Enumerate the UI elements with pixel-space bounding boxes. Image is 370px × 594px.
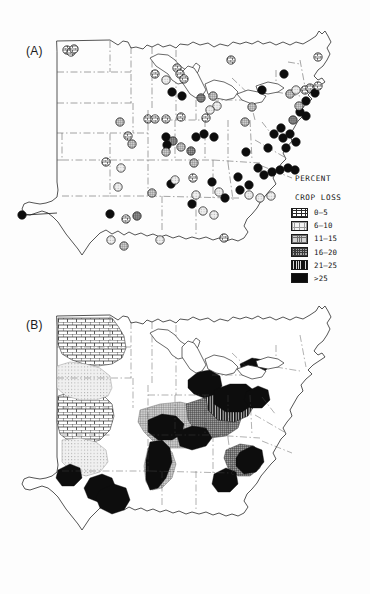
legend-row: 0–5 — [291, 207, 367, 219]
legend-swatch-over-25-icon — [291, 273, 308, 283]
data-point-marker — [133, 212, 141, 220]
data-point-marker — [189, 174, 197, 182]
data-point-marker — [256, 194, 264, 202]
data-point-marker — [117, 164, 125, 172]
data-point-marker — [102, 158, 110, 166]
data-point-marker — [241, 118, 249, 126]
data-point-marker — [220, 234, 228, 242]
data-point-marker — [197, 94, 205, 102]
data-point-marker — [282, 144, 290, 152]
data-point-marker — [227, 56, 235, 64]
data-point-marker — [221, 194, 229, 202]
legend-label-21-25: 21–25 — [314, 261, 337, 270]
data-point-marker — [177, 113, 185, 121]
data-point-marker — [151, 70, 159, 78]
data-point-marker — [270, 130, 278, 138]
panel-b-map — [0, 292, 370, 594]
legend-label-16-20: 16–20 — [314, 248, 337, 257]
legend-row: 16–20 — [291, 246, 367, 258]
legend-swatch-11-15-icon — [291, 234, 308, 244]
data-point-marker — [148, 189, 156, 197]
data-point-marker — [292, 138, 300, 146]
data-point-marker — [258, 86, 266, 94]
legend-title: PERCENT CROP LOSS — [295, 164, 367, 202]
legend-swatch-6-10-icon — [291, 221, 308, 231]
data-point-marker — [206, 106, 214, 114]
legend-row: 21–25 — [291, 259, 367, 271]
data-point-marker — [188, 200, 196, 208]
data-point-marker — [314, 82, 322, 90]
data-point-marker — [277, 124, 285, 132]
data-point-marker — [116, 118, 124, 126]
data-point-marker — [162, 115, 170, 123]
data-point-marker — [245, 191, 253, 199]
data-point-marker — [242, 148, 250, 156]
data-point-marker — [209, 92, 217, 100]
legend-swatch-0-5-icon — [291, 208, 308, 218]
legend-label-over-25: >25 — [314, 274, 328, 283]
data-point-marker — [264, 144, 272, 152]
legend-row: 6–10 — [291, 220, 367, 232]
data-point-marker — [114, 183, 122, 191]
data-point-marker — [120, 242, 128, 250]
data-point-marker — [268, 168, 276, 176]
data-point-marker — [295, 102, 303, 110]
data-point-marker — [192, 133, 200, 141]
data-point-marker — [162, 148, 170, 156]
data-point-marker — [70, 45, 78, 53]
data-point-marker — [192, 191, 200, 199]
legend-swatch-21-25-icon — [291, 260, 308, 270]
data-point-marker — [210, 133, 218, 141]
legend-title-line2: CROP LOSS — [295, 193, 342, 202]
data-point-marker — [124, 132, 132, 140]
data-point-marker — [162, 76, 170, 84]
data-point-marker — [171, 176, 179, 184]
data-point-marker — [107, 236, 115, 244]
panel-a: (A) — [0, 0, 370, 292]
data-point-marker — [286, 130, 294, 138]
legend-swatch-16-20-icon — [291, 247, 308, 257]
data-point-marker — [200, 130, 208, 138]
data-point-marker — [245, 181, 253, 189]
data-point-marker — [234, 173, 242, 181]
data-point-marker — [292, 86, 300, 94]
data-point-marker — [178, 92, 186, 100]
data-point-marker — [156, 236, 164, 244]
data-point-marker — [190, 159, 198, 167]
legend-row: >25 — [291, 272, 367, 284]
data-point-marker — [267, 192, 275, 200]
data-point-marker — [314, 53, 322, 61]
data-point-marker — [276, 166, 284, 174]
data-point-marker — [280, 70, 288, 78]
data-point-marker — [18, 211, 26, 219]
data-point-marker — [128, 140, 136, 148]
legend-label-0-5: 0–5 — [314, 208, 328, 217]
data-point-marker — [199, 207, 207, 215]
data-point-marker — [208, 178, 216, 186]
figure-root: (A) — [0, 0, 370, 594]
legend-label-11-15: 11–15 — [314, 234, 337, 243]
data-point-marker — [180, 75, 188, 83]
data-point-marker — [210, 211, 218, 219]
data-point-marker — [289, 116, 297, 124]
legend-title-line1: PERCENT — [295, 174, 331, 183]
data-point-marker — [302, 97, 310, 105]
data-point-marker — [168, 88, 176, 96]
data-point-marker — [248, 103, 256, 111]
legend-label-6-10: 6–10 — [314, 221, 333, 230]
data-point-marker — [202, 114, 210, 122]
legend-row: 11–15 — [291, 233, 367, 245]
data-point-marker — [177, 143, 185, 151]
panel-b: (B) — [0, 292, 370, 594]
data-point-marker — [106, 210, 114, 218]
data-point-marker — [254, 164, 262, 172]
data-point-marker — [302, 112, 310, 120]
data-point-marker — [122, 215, 130, 223]
legend: PERCENT CROP LOSS 0–5 6–10 11–15 16–20 — [291, 164, 367, 286]
data-point-marker — [260, 171, 268, 179]
data-point-marker — [236, 186, 244, 194]
data-point-marker — [151, 115, 159, 123]
data-point-marker — [187, 147, 195, 155]
leader-line — [26, 213, 57, 215]
